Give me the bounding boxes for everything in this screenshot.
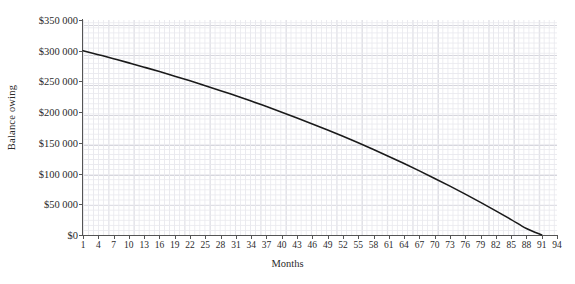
x-axis-tick-mark [98, 235, 99, 239]
x-axis-tick-label: 28 [216, 240, 226, 250]
y-axis-tick-mark [79, 174, 83, 175]
x-axis-tick-label: 61 [384, 240, 394, 250]
x-axis-tick-label: 70 [430, 240, 440, 250]
x-axis-tick-mark [221, 235, 222, 239]
x-axis-tick-label: 7 [111, 240, 116, 250]
x-axis-tick-mark [374, 235, 375, 239]
x-axis-tick-label: 88 [522, 240, 532, 250]
x-axis-tick-mark [526, 235, 527, 239]
x-axis-tick-label: 16 [155, 240, 165, 250]
x-axis-title-text: Months [271, 258, 303, 269]
y-axis-tick-mark [79, 51, 83, 52]
x-axis-tick-label: 79 [476, 240, 486, 250]
x-axis-tick-mark [236, 235, 237, 239]
y-axis-title: Balance owing [2, 0, 22, 235]
x-axis-tick-label: 58 [369, 240, 379, 250]
y-axis-tick-label: $100 000 [20, 168, 78, 179]
x-axis-tick-mark [205, 235, 206, 239]
x-axis-tick-label: 25 [201, 240, 211, 250]
plot-area [83, 20, 557, 235]
y-axis-tick-labels: $0$50 000$100 000$150 000$200 000$250 00… [20, 0, 78, 284]
x-axis-tick-mark [83, 235, 84, 239]
x-axis-tick-mark [297, 235, 298, 239]
x-axis-tick-mark [450, 235, 451, 239]
x-axis-tick-label: 55 [353, 240, 363, 250]
x-axis-tick-label: 73 [445, 240, 455, 250]
x-axis-tick-label: 13 [139, 240, 149, 250]
x-axis-tick-label: 22 [185, 240, 195, 250]
y-axis-tick-label: $200 000 [20, 107, 78, 118]
y-axis-tick-mark [79, 204, 83, 205]
x-axis-tick-mark [114, 235, 115, 239]
x-axis-tick-mark [557, 235, 558, 239]
x-axis-tick-mark [129, 235, 130, 239]
x-axis-tick-label: 10 [124, 240, 134, 250]
x-axis-tick-mark [389, 235, 390, 239]
x-axis-tick-mark [404, 235, 405, 239]
x-axis-tick-mark [282, 235, 283, 239]
x-axis-tick-label: 43 [292, 240, 302, 250]
x-axis-tick-label: 67 [415, 240, 425, 250]
x-axis-tick-label: 19 [170, 240, 180, 250]
x-axis-tick-mark [251, 235, 252, 239]
x-axis-tick-label: 94 [552, 240, 562, 250]
x-axis-tick-mark [358, 235, 359, 239]
x-axis-tick-mark [496, 235, 497, 239]
y-axis-tick-label: $250 000 [20, 76, 78, 87]
x-axis-tick-mark [266, 235, 267, 239]
x-axis-tick-mark [312, 235, 313, 239]
balance-owing-path [83, 51, 542, 235]
x-axis-tick-label: 64 [399, 240, 409, 250]
x-axis-tick-label: 37 [262, 240, 272, 250]
x-axis-tick-mark [343, 235, 344, 239]
x-axis-tick-mark [419, 235, 420, 239]
y-axis-tick-label: $0 [20, 230, 78, 241]
y-axis-tick-mark [79, 112, 83, 113]
x-axis-tick-mark [144, 235, 145, 239]
x-axis-tick-label: 46 [308, 240, 318, 250]
x-axis-tick-mark [465, 235, 466, 239]
y-axis-title-text: Balance owing [7, 85, 18, 150]
x-axis-tick-label: 1 [81, 240, 86, 250]
x-axis-tick-label: 76 [461, 240, 471, 250]
y-axis-tick-mark [79, 20, 83, 21]
x-axis-tick-label: 82 [491, 240, 501, 250]
x-axis-tick-label: 91 [537, 240, 547, 250]
x-axis-ticks: 1471013161922252831343740434649525558616… [83, 235, 557, 255]
x-axis-tick-mark [175, 235, 176, 239]
x-axis-tick-mark [328, 235, 329, 239]
y-axis-tick-label: $150 000 [20, 137, 78, 148]
x-axis-tick-mark [511, 235, 512, 239]
balance-owing-line [83, 20, 557, 235]
x-axis-tick-label: 34 [246, 240, 256, 250]
y-axis-tick-mark [79, 143, 83, 144]
x-axis-tick-mark [435, 235, 436, 239]
x-axis-tick-mark [481, 235, 482, 239]
x-axis-tick-label: 49 [323, 240, 333, 250]
x-axis-tick-label: 85 [506, 240, 516, 250]
x-axis-tick-label: 40 [277, 240, 287, 250]
y-axis-tick-label: $350 000 [20, 15, 78, 26]
y-axis-tick-label: $300 000 [20, 45, 78, 56]
x-axis-tick-label: 52 [338, 240, 348, 250]
y-axis-tick-mark [79, 81, 83, 82]
x-axis-tick-mark [542, 235, 543, 239]
x-axis-title: Months [0, 258, 575, 269]
y-axis-tick-label: $50 000 [20, 199, 78, 210]
x-axis-tick-label: 4 [96, 240, 101, 250]
chart-figure: Balance owing $0$50 000$100 000$150 000$… [0, 0, 575, 284]
x-axis-tick-mark [159, 235, 160, 239]
x-axis-tick-mark [190, 235, 191, 239]
x-axis-tick-label: 31 [231, 240, 241, 250]
